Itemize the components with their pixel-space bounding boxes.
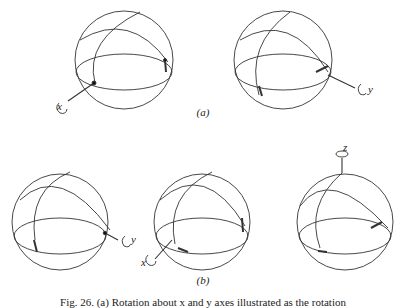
axis-label-b1: y — [131, 233, 136, 245]
sphere-a1 — [57, 11, 173, 114]
axis-label-b3: z — [343, 141, 347, 153]
figure-caption: Fig. 26. (a) Rotation about x and y axes… — [0, 296, 406, 308]
sphere-b3 — [297, 151, 393, 270]
panel-a-label: (a) — [183, 106, 223, 118]
axis-label-b2: x — [141, 256, 146, 268]
axis-label-a1: x — [57, 100, 62, 112]
panel-b-label: (b) — [183, 274, 223, 286]
axis-label-a2: y — [368, 83, 373, 95]
sphere-a2 — [234, 11, 366, 109]
sphere-b1 — [12, 172, 130, 270]
sphere-b2 — [146, 172, 250, 270]
